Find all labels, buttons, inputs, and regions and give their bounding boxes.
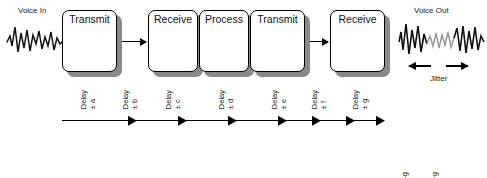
- voice-out-label: Voice Out: [414, 6, 449, 15]
- voice-in-label: Voice In: [18, 6, 46, 15]
- timeline-arrowhead: [376, 116, 385, 126]
- delay-label-line2: ± d: [227, 90, 236, 109]
- timeline-arrowhead: [228, 116, 237, 126]
- process-box-label: Transmit: [69, 14, 109, 25]
- delay-label-c: Delay ± c: [165, 90, 182, 109]
- delay-label-b: Delay ± b: [122, 90, 139, 109]
- timeline-arrowhead: [178, 116, 187, 126]
- delay-label-line2: ± a: [89, 90, 98, 109]
- process-box-process-1[interactable]: Process: [199, 10, 249, 72]
- formula-negative-sum: -a-b-c-d-e-f-g: [400, 172, 409, 178]
- delay-label-g: Delay ± g: [352, 90, 369, 109]
- delay-label-line2: ± g: [361, 90, 370, 109]
- process-box-transmit-1[interactable]: Transmit: [62, 10, 117, 72]
- process-box-label: Transmit: [257, 14, 297, 25]
- timeline-arrowhead: [346, 116, 355, 126]
- delay-timeline-line: [62, 120, 384, 121]
- jitter-arrow-left: [409, 65, 431, 67]
- delay-label-line2: ± b: [131, 90, 140, 109]
- process-box-label: Receive: [154, 14, 192, 25]
- timeline-arrowhead: [128, 116, 137, 126]
- diagram-canvas: Voice In Transmit Receive Process Transm…: [0, 0, 487, 178]
- voice-in-waveform: [6, 22, 66, 60]
- jitter-arrow-right: [446, 65, 468, 67]
- connector-transmit2-receive2: [310, 41, 328, 42]
- delay-label-line2: ± f: [320, 90, 329, 109]
- process-box-label: Receive: [339, 14, 377, 25]
- formula-positive-sum: +a+b+c+d+e+f+g: [430, 172, 439, 178]
- process-box-receive-2[interactable]: Receive: [330, 10, 385, 72]
- process-box-receive-1[interactable]: Receive: [148, 10, 198, 72]
- delay-label-f: Delay ± f: [311, 90, 328, 109]
- delay-label-line2: ± e: [280, 90, 289, 109]
- process-box-transmit-2[interactable]: Transmit: [250, 10, 305, 72]
- delay-label-line2: ± c: [174, 90, 183, 109]
- connector-transmit1-receive1: [122, 41, 146, 42]
- timeline-arrowhead: [312, 116, 321, 126]
- voice-out-waveform: [398, 20, 485, 62]
- jitter-label: Jitter: [430, 74, 447, 83]
- timeline-arrowhead: [278, 116, 287, 126]
- delay-label-d: Delay ± d: [218, 90, 235, 109]
- delay-label-e: Delay ± e: [271, 90, 288, 109]
- delay-label-a: Delay ± a: [80, 90, 97, 109]
- process-box-label: Process: [205, 14, 243, 25]
